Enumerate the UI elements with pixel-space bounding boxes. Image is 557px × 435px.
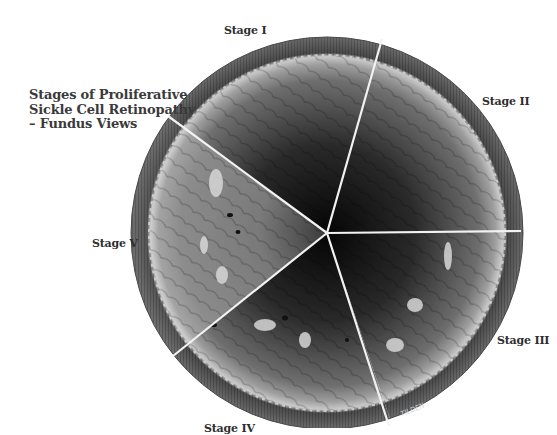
label-stage-3: Stage III [497,334,549,347]
title-line-1: Stages of Proliferative [29,88,195,103]
label-stage-5: Stage V [92,237,138,250]
label-stage-4: Stage IV [204,422,255,435]
figure-title: Stages of Proliferative Sickle Cell Reti… [29,88,195,132]
title-line-3: – Fundus Views [29,117,195,132]
label-stage-2: Stage II [482,95,529,108]
label-stage-1: Stage I [224,24,266,37]
title-line-2: Sickle Cell Retinopathy [29,103,195,118]
